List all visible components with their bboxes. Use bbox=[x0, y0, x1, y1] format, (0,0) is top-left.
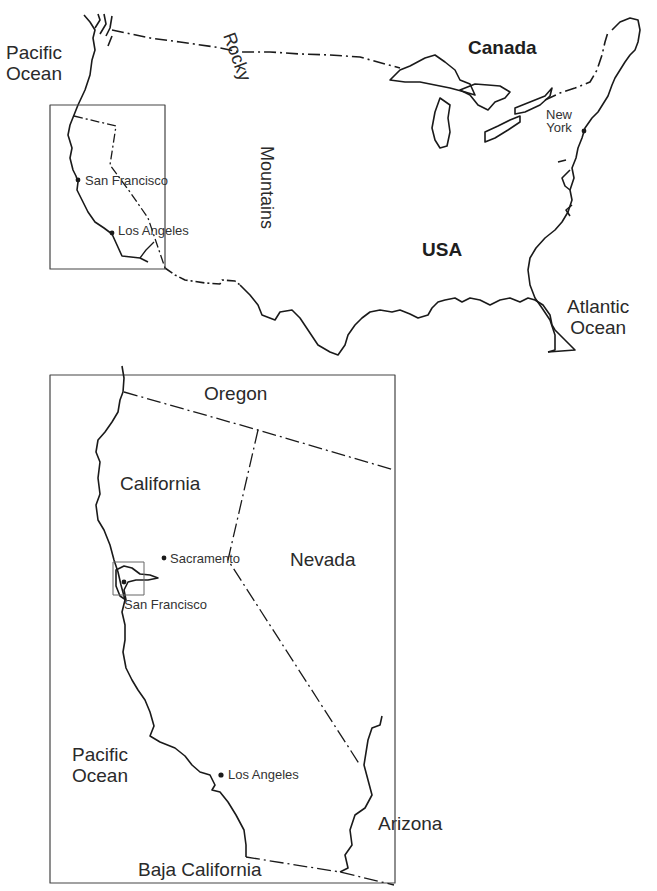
los-angeles-dot-overview bbox=[110, 231, 115, 236]
mexico-border-detail bbox=[246, 857, 394, 885]
label-usa: USA bbox=[422, 240, 462, 259]
canada-border bbox=[112, 30, 400, 68]
label-los-angeles-detail: Los Angeles bbox=[228, 768, 299, 781]
colorado-river bbox=[340, 716, 382, 872]
california-detail-map bbox=[50, 366, 395, 885]
san-francisco-dot-detail bbox=[122, 580, 127, 585]
california-nevada-border bbox=[228, 430, 360, 765]
label-oregon: Oregon bbox=[204, 384, 267, 403]
detail-map-frame bbox=[50, 375, 395, 883]
sacramento-dot bbox=[162, 556, 167, 561]
label-pacific-ocean-overview: Pacific Ocean bbox=[6, 42, 62, 85]
label-sacramento: Sacramento bbox=[170, 552, 240, 565]
ca-az-border bbox=[140, 242, 154, 258]
label-new-york: New York bbox=[546, 108, 572, 134]
label-san-francisco-overview: San Francisco bbox=[85, 174, 168, 187]
label-arizona: Arizona bbox=[378, 814, 442, 833]
lake-michigan bbox=[432, 98, 450, 148]
canada-border-east bbox=[545, 32, 608, 100]
puget-sound bbox=[95, 14, 112, 46]
label-canada: Canada bbox=[468, 38, 537, 57]
label-atlantic-ocean: Atlantic Ocean bbox=[567, 296, 629, 339]
label-mountains: Mountains bbox=[258, 146, 276, 229]
mexico-border bbox=[165, 268, 240, 285]
label-los-angeles-overview: Los Angeles bbox=[118, 224, 189, 237]
los-angeles-dot-detail bbox=[218, 772, 223, 777]
label-california: California bbox=[120, 474, 200, 493]
label-nevada: Nevada bbox=[290, 550, 356, 569]
label-baja-california: Baja California bbox=[138, 860, 262, 879]
label-san-francisco-detail: San Francisco bbox=[124, 598, 207, 611]
new-york-dot-overview bbox=[582, 129, 587, 134]
lake-huron bbox=[460, 84, 510, 110]
lake-erie bbox=[485, 116, 520, 142]
label-pacific-ocean-detail: Pacific Ocean bbox=[72, 744, 128, 787]
san-francisco-dot-overview bbox=[76, 178, 81, 183]
gulf-coastline bbox=[240, 285, 575, 355]
